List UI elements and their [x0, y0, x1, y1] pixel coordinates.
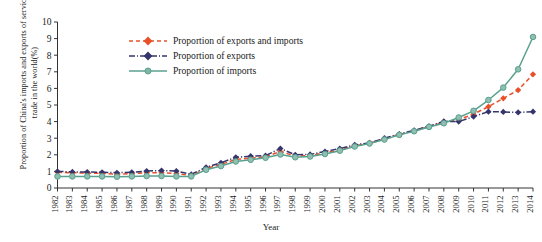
data-point: [278, 152, 284, 158]
legend-key-exports: [128, 50, 168, 62]
y-tick-label: 6: [47, 84, 52, 94]
data-point: [382, 137, 388, 143]
legend-item-exports-and-imports[interactable]: Proportion of exports and imports: [128, 33, 303, 48]
data-point: [486, 97, 492, 103]
legend-item-imports[interactable]: Proportion of imports: [128, 63, 303, 78]
data-point: [174, 174, 180, 180]
data-point: [99, 174, 105, 180]
x-tick-label: 2013: [510, 196, 520, 213]
x-tick-label: 1997: [272, 195, 282, 213]
data-point: [307, 154, 313, 160]
data-point: [515, 67, 521, 73]
data-point: [292, 154, 298, 160]
legend-key-imports: [128, 65, 168, 77]
data-point: [55, 174, 61, 180]
chart-container: Proportion of China's imports and export…: [0, 0, 542, 242]
y-tick-label: 1: [47, 167, 52, 177]
x-tick-label: 2012: [495, 196, 505, 213]
x-tick-label: 1994: [228, 195, 238, 213]
x-tick-label: 2005: [391, 196, 401, 213]
x-axis-label: Year: [0, 222, 542, 232]
data-point: [218, 163, 224, 169]
x-tick-label: 1990: [168, 196, 178, 213]
y-tick-label: 9: [47, 34, 52, 44]
data-point: [426, 124, 432, 130]
x-tick-label: 1987: [124, 195, 134, 213]
data-point: [500, 109, 506, 115]
x-tick-label: 2008: [436, 196, 446, 213]
data-point: [203, 167, 209, 173]
x-tick-label: 1998: [287, 196, 297, 213]
x-tick-label: 1996: [258, 195, 268, 213]
x-tick-label: 1995: [243, 196, 253, 213]
data-point: [352, 144, 358, 150]
x-tick-label: 1982: [50, 196, 60, 213]
data-point: [530, 109, 536, 115]
data-point: [84, 174, 90, 180]
data-point: [144, 173, 150, 179]
legend-label-exports-and-imports: Proportion of exports and imports: [173, 35, 303, 46]
data-point: [159, 173, 165, 179]
x-tick-label: 1989: [154, 196, 164, 213]
legend-item-exports[interactable]: Proportion of exports: [128, 48, 303, 63]
x-tick-label: 1988: [139, 196, 149, 213]
x-tick-label: 2004: [376, 195, 386, 213]
y-tick-label: 7: [47, 67, 52, 77]
x-tick-label: 1993: [213, 196, 223, 213]
legend-label-exports: Proportion of exports: [173, 50, 255, 61]
data-point: [411, 128, 417, 134]
data-point: [367, 141, 373, 147]
data-point: [114, 174, 120, 180]
x-tick-label: 1992: [198, 196, 208, 213]
y-tick-label: 2: [47, 150, 52, 160]
data-point: [396, 132, 402, 138]
legend-key-exports-and-imports: [128, 35, 168, 47]
data-point: [263, 155, 269, 161]
y-tick-label: 8: [47, 51, 52, 61]
data-point: [337, 148, 343, 154]
data-point: [515, 87, 521, 93]
x-tick-label: 2009: [451, 196, 461, 213]
x-tick-label: 2006: [406, 195, 416, 213]
data-point: [456, 115, 462, 121]
data-point: [441, 120, 447, 126]
x-tick-label: 2014: [525, 195, 535, 213]
data-point: [485, 109, 491, 115]
data-point: [70, 174, 76, 180]
x-tick-label: 1983: [64, 196, 74, 213]
data-point: [515, 109, 521, 115]
x-tick-label: 1986: [109, 195, 119, 213]
x-tick-label: 2001: [332, 196, 342, 213]
y-tick-label: 10: [42, 17, 52, 27]
data-point: [530, 34, 536, 40]
data-point: [233, 159, 239, 165]
data-point: [188, 174, 194, 180]
y-tick-label: 5: [47, 100, 52, 110]
y-tick-label: 3: [47, 134, 52, 144]
x-tick-label: 1985: [94, 196, 104, 213]
x-tick-label: 1991: [183, 196, 193, 213]
legend: Proportion of exports and imports Propor…: [128, 33, 303, 78]
x-tick-label: 1984: [79, 195, 89, 213]
data-point: [322, 151, 328, 157]
x-tick-label: 2000: [317, 196, 327, 213]
data-point: [129, 174, 135, 180]
data-point: [248, 157, 254, 163]
data-point: [471, 108, 477, 114]
legend-label-imports: Proportion of imports: [173, 65, 256, 76]
data-point: [500, 95, 506, 101]
data-point: [500, 85, 506, 91]
y-tick-label: 4: [47, 117, 52, 127]
x-tick-label: 2002: [347, 196, 357, 213]
x-tick-label: 1999: [302, 196, 312, 213]
y-tick-label: 0: [47, 183, 52, 193]
x-tick-label: 2011: [480, 196, 490, 213]
x-tick-label: 2010: [466, 196, 476, 213]
x-tick-label: 2007: [421, 195, 431, 213]
series-line: [58, 112, 534, 175]
data-point: [530, 71, 536, 77]
x-tick-label: 2003: [362, 196, 372, 213]
